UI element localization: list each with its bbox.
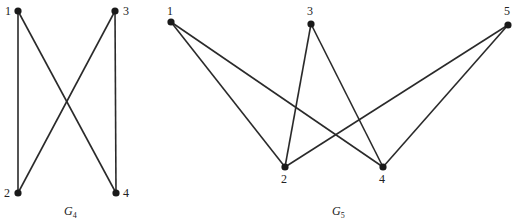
vertex-label-2: 2 [281, 172, 287, 186]
vertex-label-1: 1 [167, 4, 173, 18]
vertex-label-5: 5 [504, 4, 510, 18]
vertex-3 [111, 7, 118, 14]
graph-title: G4 [64, 204, 77, 220]
edge-1-2 [171, 22, 285, 167]
vertex-label-3: 3 [123, 4, 129, 18]
graph-title-subscript: 4 [73, 211, 77, 220]
graph-title-subscript: 5 [341, 211, 345, 220]
vertex-2 [14, 189, 21, 196]
graph-g4: 1234G4 [4, 4, 129, 220]
graph-title: G5 [332, 204, 345, 220]
graph-g5: 12345G5 [167, 4, 512, 220]
vertex-4 [112, 189, 119, 196]
vertex-1 [167, 18, 174, 25]
vertex-3 [307, 20, 314, 27]
edge-5-4 [383, 25, 508, 167]
vertex-label-1: 1 [5, 4, 11, 18]
graph-diagram: 1234G412345G5 [0, 0, 516, 222]
vertex-4 [379, 163, 386, 170]
graphs-layer: 1234G412345G5 [4, 4, 512, 220]
vertex-label-4: 4 [123, 186, 129, 200]
vertex-1 [14, 7, 21, 14]
edge-3-2 [285, 24, 311, 167]
edge-1-4 [171, 22, 383, 167]
edge-3-4 [115, 11, 116, 193]
vertex-label-3: 3 [307, 4, 313, 18]
vertex-5 [504, 21, 511, 28]
vertex-2 [281, 163, 288, 170]
vertex-label-2: 2 [4, 186, 10, 200]
graph-title-main: G [64, 204, 73, 218]
graph-title-main: G [332, 204, 341, 218]
vertex-label-4: 4 [379, 172, 385, 186]
edge-5-2 [285, 25, 508, 167]
edge-3-4 [311, 24, 383, 167]
